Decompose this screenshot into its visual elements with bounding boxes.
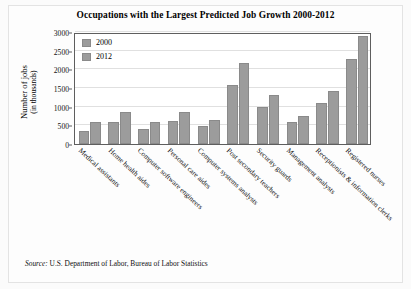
legend-item-2000[interactable]: 2000 — [82, 38, 112, 47]
bar-2000[interactable] — [168, 121, 179, 144]
y-axis-tick-labels: 050010001500200025003000 — [40, 33, 72, 145]
figure-container: Occupations with the Largest Predicted J… — [0, 0, 411, 289]
legend: 20002012 — [82, 38, 112, 66]
bar-group — [283, 34, 313, 144]
y-tick-label-500: 500 — [58, 122, 69, 131]
bar-2000[interactable] — [227, 85, 238, 144]
y-tick-label-2000: 2000 — [54, 66, 69, 75]
bar-group — [313, 34, 343, 144]
y-tick-mark-500 — [69, 126, 72, 127]
source-text: U.S. Department of Labor, Bureau of Labo… — [48, 259, 208, 268]
y-tick-mark-3000 — [69, 33, 72, 34]
y-axis-title-line1: Number of jobs — [19, 65, 29, 119]
y-tick-label-3000: 3000 — [54, 29, 69, 38]
bar-2000[interactable] — [287, 122, 298, 144]
plot-area — [74, 33, 371, 145]
legend-swatch-icon — [82, 39, 91, 47]
legend-item-2012[interactable]: 2012 — [82, 52, 112, 61]
source-note: Source: U.S. Department of Labor, Bureau… — [25, 259, 208, 268]
bar-2000[interactable] — [108, 122, 119, 144]
bar-2000[interactable] — [346, 59, 357, 144]
bar-2000[interactable] — [79, 131, 90, 144]
bar-2000[interactable] — [316, 103, 327, 144]
bar-group — [342, 34, 372, 144]
bar-2012[interactable] — [90, 122, 101, 144]
bar-2012[interactable] — [358, 36, 369, 144]
bar-2012[interactable] — [298, 116, 309, 144]
bar-2012[interactable] — [120, 112, 131, 144]
legend-label: 2000 — [96, 38, 112, 47]
y-tick-mark-2500 — [69, 51, 72, 52]
source-label: Source: — [25, 259, 48, 268]
y-tick-mark-1000 — [69, 107, 72, 108]
bar-2012[interactable] — [150, 122, 161, 144]
x-axis-tick-labels: Medical assistantsHome health aidesCompu… — [74, 146, 371, 246]
bar-group — [224, 34, 254, 144]
y-axis-title-line2: (in thousands) — [29, 65, 39, 119]
legend-swatch-icon — [82, 53, 91, 61]
gridline-3000 — [75, 31, 370, 32]
x-tick-label: Post secondary teachers — [225, 146, 282, 200]
bar-2012[interactable] — [269, 95, 280, 144]
y-tick-label-1500: 1500 — [54, 85, 69, 94]
x-tick-label: Management analysts — [285, 146, 338, 196]
bar-2012[interactable] — [209, 120, 220, 144]
bar-group — [253, 34, 283, 144]
y-tick-label-1000: 1000 — [54, 103, 69, 112]
y-tick-label-2500: 2500 — [54, 47, 69, 56]
y-tick-mark-1500 — [69, 89, 72, 90]
bar-group — [134, 34, 164, 144]
y-tick-mark-0 — [69, 145, 72, 146]
chart-title: Occupations with the Largest Predicted J… — [0, 10, 411, 20]
bar-group — [164, 34, 194, 144]
bar-2000[interactable] — [138, 129, 149, 144]
legend-label: 2012 — [96, 52, 112, 61]
bar-series-container — [75, 34, 370, 144]
bar-2012[interactable] — [328, 91, 339, 144]
y-tick-mark-2000 — [69, 70, 72, 71]
bar-2000[interactable] — [257, 107, 268, 144]
bar-2000[interactable] — [198, 126, 209, 144]
bar-group — [194, 34, 224, 144]
bar-2012[interactable] — [239, 63, 250, 144]
y-axis-title: Number of jobs (in thousands) — [18, 36, 40, 148]
bar-2012[interactable] — [179, 112, 190, 144]
